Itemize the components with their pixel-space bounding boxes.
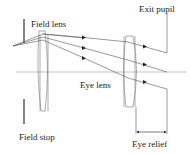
arrow-icon bbox=[82, 56, 86, 60]
ray-middle bbox=[43, 37, 167, 72]
arrow-icon bbox=[82, 36, 86, 40]
field-lens-label: Field lens bbox=[31, 19, 67, 29]
field-stop-label: Field stop bbox=[19, 132, 55, 142]
eye-lens bbox=[124, 36, 137, 107]
eyepiece-diagram: Field lens Exit pupil Eye lens Field sto… bbox=[0, 0, 191, 154]
eye-lens-label: Eye lens bbox=[80, 80, 111, 90]
arrow-icon bbox=[82, 46, 86, 50]
eye-relief-label: Eye relief bbox=[132, 139, 167, 149]
field-lens bbox=[38, 31, 48, 111]
exit-pupil-label: Exit pupil bbox=[139, 4, 175, 14]
arrow-icon bbox=[143, 45, 147, 49]
ray-top bbox=[43, 34, 167, 53]
